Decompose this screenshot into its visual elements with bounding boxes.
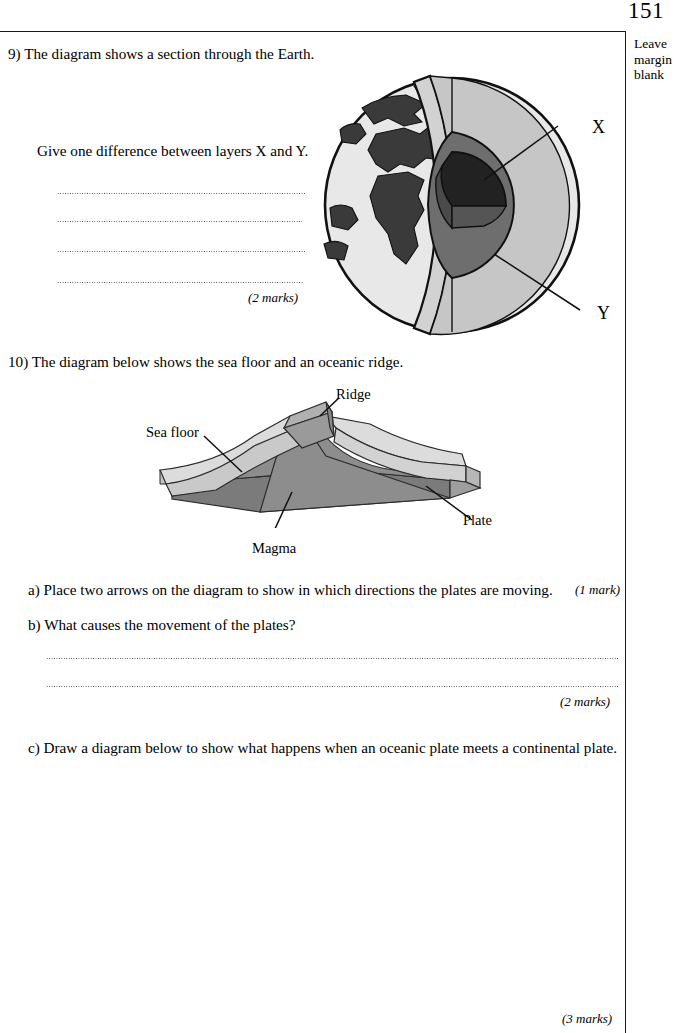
answer-line[interactable] xyxy=(57,250,305,252)
earth-label-y: Y xyxy=(597,303,610,324)
margin-note-line-3: blank xyxy=(634,67,682,83)
question-10c-marks: (3 marks) xyxy=(562,1011,612,1027)
ridge-label: Ridge xyxy=(336,386,371,403)
answer-line[interactable] xyxy=(46,685,619,687)
margin-note-line-2: margin xyxy=(634,52,682,68)
earth-cross-section-figure xyxy=(318,68,618,343)
sea-floor-label: Sea floor xyxy=(146,424,199,441)
leave-margin-blank-note: Leave margin blank xyxy=(634,36,682,83)
header-rule xyxy=(0,31,626,32)
question-9-stem: 9) The diagram shows a section through t… xyxy=(8,44,314,63)
question-10b-text: b) What causes the movement of the plate… xyxy=(28,615,296,634)
earth-label-x: X xyxy=(592,117,605,138)
margin-note-line-1: Leave xyxy=(634,36,682,52)
exam-page: 151 Leave margin blank 9) The diagram sh… xyxy=(0,0,683,1033)
page-number: 151 xyxy=(628,0,664,24)
question-10-stem: 10) The diagram below shows the sea floo… xyxy=(8,352,403,371)
magma-label: Magma xyxy=(252,540,296,557)
plate-label: Plate xyxy=(463,512,492,529)
question-9-prompt: Give one difference between layers X and… xyxy=(37,141,308,160)
question-10c-text: c) Draw a diagram below to show what hap… xyxy=(28,738,617,757)
question-10a-text: a) Place two arrows on the diagram to sh… xyxy=(28,580,553,599)
answer-line[interactable] xyxy=(46,657,619,659)
oceanic-ridge-figure xyxy=(150,398,490,528)
answer-line[interactable] xyxy=(57,220,302,222)
margin-rule xyxy=(625,31,626,1033)
question-10a-marks: (1 mark) xyxy=(575,582,620,598)
answer-line[interactable] xyxy=(57,192,305,194)
answer-line[interactable] xyxy=(57,281,303,283)
question-9-marks: (2 marks) xyxy=(248,290,298,306)
question-10b-marks: (2 marks) xyxy=(560,694,610,710)
